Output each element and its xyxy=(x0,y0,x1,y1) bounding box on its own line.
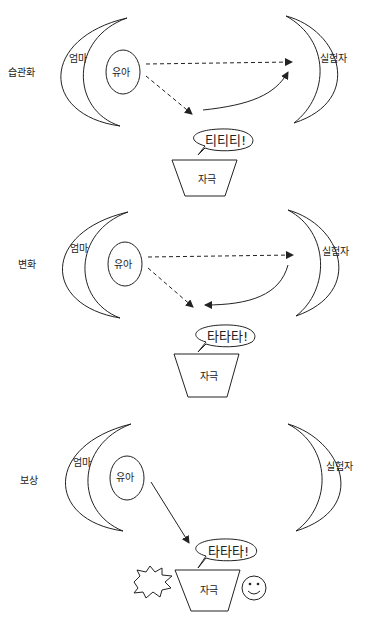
experimenter-crescent xyxy=(286,16,338,123)
stimulus-label: 자극 xyxy=(200,585,218,596)
stimulus-label: 자극 xyxy=(200,371,218,382)
panel-habituation: 습관화 엄마 유아 실험자 티티티! 자극 xyxy=(8,16,347,196)
speech-text: 타타타! xyxy=(208,544,249,559)
experimenter-arrow xyxy=(203,72,288,110)
experimenter-arrow xyxy=(205,265,288,305)
smiley-face-icon xyxy=(242,576,266,600)
experimenter-label: 실험자 xyxy=(320,53,347,64)
panel-title: 변화 xyxy=(18,259,36,270)
experimenter-crescent xyxy=(288,210,339,316)
gaze-arrow xyxy=(151,482,189,543)
panel-title: 보상 xyxy=(20,475,38,486)
panel-title: 습관화 xyxy=(8,67,35,78)
panel-reward: 보상 엄마 유아 실험자 타타타! 자극 xyxy=(20,424,353,611)
mother-label: 엄마 xyxy=(69,53,87,64)
stimulus-label: 자극 xyxy=(198,174,216,185)
gaze-arrow-dashed xyxy=(146,62,292,64)
flash-burst-icon xyxy=(134,566,172,598)
infant-label: 유아 xyxy=(116,472,134,483)
experimenter-label: 실험자 xyxy=(322,246,349,257)
infant-label: 유아 xyxy=(114,259,132,270)
experimenter-crescent xyxy=(288,424,341,531)
gaze-arrow-dashed xyxy=(148,268,193,307)
mother-label: 엄마 xyxy=(70,243,88,254)
panel-change: 변화 엄마 유아 실험자 타타타! 자극 xyxy=(18,210,349,397)
mother-label: 엄마 xyxy=(73,457,91,468)
gaze-arrow-dashed xyxy=(148,255,293,257)
diagram-canvas: 습관화 엄마 유아 실험자 티티티! 자극 변화 엄마 유아 실험자 타타타! … xyxy=(0,0,372,628)
infant-label: 유아 xyxy=(112,67,130,78)
experimenter-label: 실험자 xyxy=(326,461,353,472)
gaze-arrow-dashed xyxy=(146,76,192,114)
speech-text: 타타타! xyxy=(207,329,248,344)
speech-text: 티티티! xyxy=(205,133,246,148)
